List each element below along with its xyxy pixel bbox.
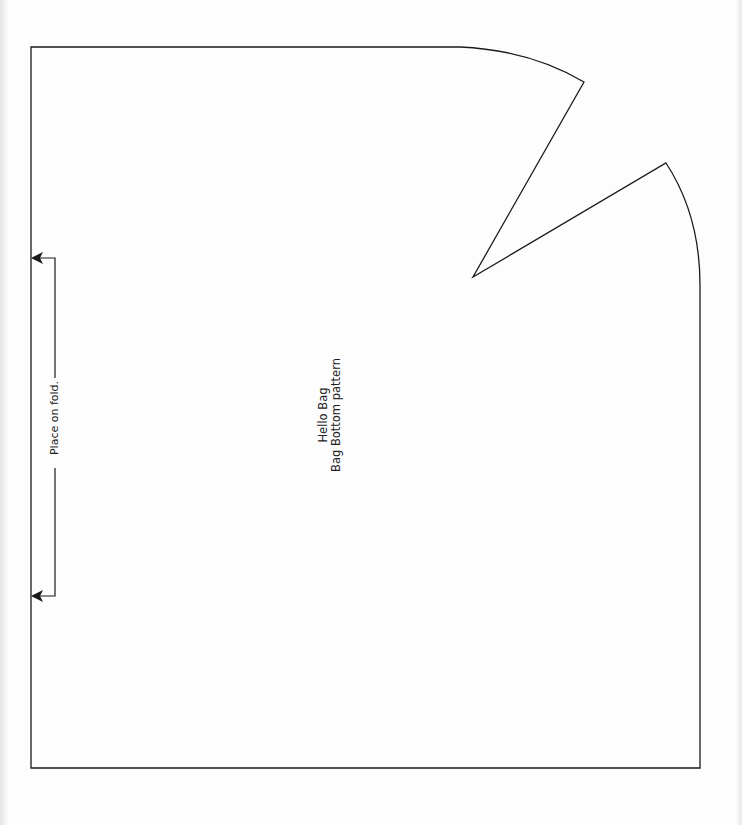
pattern-outline — [0, 0, 742, 825]
fold-label: Place on fold. — [49, 376, 61, 460]
pattern-title-block: Hello Bag Bag Bottom pattern — [317, 350, 343, 480]
pattern-subtitle: Bag Bottom pattern — [330, 350, 343, 480]
pattern-piece-outline — [31, 47, 700, 768]
